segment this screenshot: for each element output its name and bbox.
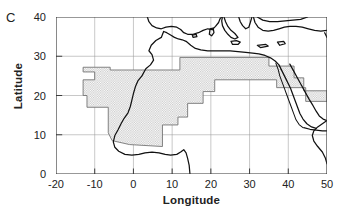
y-tick-label-20: 20	[20, 90, 46, 102]
x-tick-label--20: -20	[41, 178, 71, 190]
x-tick-label-10: 10	[157, 178, 187, 190]
x-tick-label--10: -10	[80, 178, 110, 190]
x-tick-label-50: 50	[312, 178, 342, 190]
x-axis-title: Longitude	[56, 194, 327, 206]
map-svg	[56, 17, 327, 174]
y-tick-label-40: 40	[20, 11, 46, 23]
x-tick-label-40: 40	[273, 178, 303, 190]
panel-label: C	[6, 10, 15, 25]
y-tick-label-30: 30	[20, 50, 46, 62]
x-tick-label-20: 20	[196, 178, 226, 190]
map-plot-area	[56, 17, 327, 174]
y-tick-label-10: 10	[20, 129, 46, 141]
figure-panel-c: C Latitude Longitude 0 10 20 30 40 -20 -…	[0, 0, 342, 214]
x-tick-label-0: 0	[118, 178, 148, 190]
x-tick-label-30: 30	[235, 178, 265, 190]
